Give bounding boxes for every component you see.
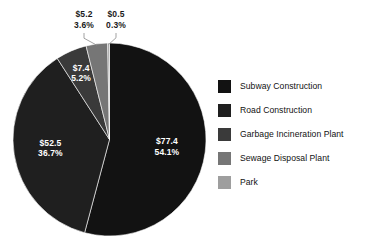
- legend-label: Park: [240, 177, 258, 187]
- legend-swatch: [218, 176, 231, 189]
- slice-value: $52.5: [26, 138, 74, 149]
- slice-value: $77.4: [143, 136, 191, 147]
- slice-label-road-construction: $52.5 36.7%: [26, 138, 74, 159]
- legend-item[interactable]: Garbage Incineration Plant: [218, 122, 364, 146]
- slice-percent: 54.1%: [143, 147, 191, 158]
- legend-label: Road Construction: [240, 105, 312, 115]
- slice-percent: 5.2%: [57, 73, 105, 84]
- pie-chart: $77.4 54.1% $52.5 36.7% $7.4 5.2% $5.2 3…: [0, 0, 367, 243]
- slice-label-garbage-incineration-plant: $7.4 5.2%: [57, 63, 105, 84]
- legend-item[interactable]: Park: [218, 170, 364, 194]
- legend-swatch: [218, 80, 231, 93]
- legend-swatch: [218, 128, 231, 141]
- slice-percent: 36.7%: [26, 148, 74, 159]
- legend-item[interactable]: Road Construction: [218, 98, 364, 122]
- slice-percent: 0.3%: [100, 20, 132, 31]
- legend-label: Subway Construction: [240, 81, 322, 91]
- slice-label-sewage-disposal-plant: $5.2 3.6%: [68, 9, 100, 30]
- legend-label: Garbage Incineration Plant: [240, 129, 344, 139]
- slice-label-park: $0.5 0.3%: [100, 9, 132, 30]
- chart-legend: Subway ConstructionRoad ConstructionGarb…: [218, 74, 364, 194]
- legend-item[interactable]: Subway Construction: [218, 74, 364, 98]
- leader-line: [84, 33, 97, 45]
- slice-percent: 3.6%: [68, 20, 100, 31]
- slice-label-subway-construction: $77.4 54.1%: [143, 136, 191, 157]
- slice-value: $7.4: [57, 63, 105, 74]
- slice-value: $0.5: [100, 9, 132, 20]
- legend-swatch: [218, 104, 231, 117]
- slice-value: $5.2: [68, 9, 100, 20]
- legend-label: Sewage Disposal Plant: [240, 153, 329, 163]
- legend-swatch: [218, 152, 231, 165]
- legend-item[interactable]: Sewage Disposal Plant: [218, 146, 364, 170]
